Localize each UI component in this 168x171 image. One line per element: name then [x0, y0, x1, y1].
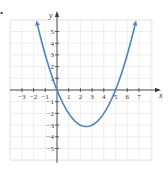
x-tick-label: 6 — [125, 93, 129, 101]
x-axis-label: x — [158, 91, 163, 100]
x-tick-label: 3 — [90, 93, 94, 101]
y-tick-label: 2 — [51, 63, 55, 71]
y-tick-label: −3 — [47, 122, 55, 130]
x-tick-label: −3 — [18, 93, 26, 101]
y-tick-label: −1 — [47, 98, 55, 106]
x-tick-label: −2 — [30, 93, 38, 101]
axes — [10, 14, 158, 163]
y-axis-label: y — [48, 11, 53, 20]
y-tick-label: −2 — [47, 110, 55, 118]
y-axis-arrow-icon — [55, 11, 59, 17]
x-tick-label: 7 — [137, 93, 141, 101]
y-tick-label: 5 — [51, 28, 55, 36]
y-tick-label: −4 — [47, 133, 55, 141]
y-tick-label: 3 — [51, 51, 55, 59]
y-tick-label: −5 — [47, 145, 55, 153]
bullet-marker: • — [0, 8, 3, 18]
x-tick-label: 1 — [67, 93, 71, 101]
arrow-head-left-icon — [35, 20, 40, 25]
parabola-graph: • −3−2−11234567 54321−1−2−3−4−5 x y — [0, 0, 168, 171]
x-tick-label: 2 — [79, 93, 83, 101]
arrow-head-right-icon — [133, 20, 138, 25]
x-tick-label: 4 — [102, 93, 106, 101]
x-tick-labels: −3−2−11234567 — [18, 93, 141, 101]
y-tick-labels: 54321−1−2−3−4−5 — [47, 28, 55, 153]
y-tick-label: 4 — [51, 40, 55, 48]
